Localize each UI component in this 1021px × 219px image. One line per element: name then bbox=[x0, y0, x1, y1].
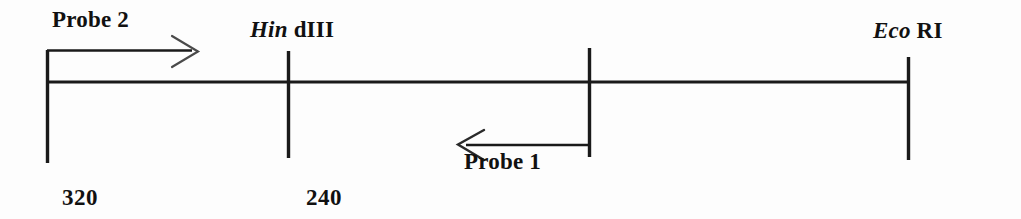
ecori-genus-text: Eco bbox=[873, 18, 911, 43]
fragment-size-label-left: 320 bbox=[62, 186, 98, 209]
ecori-site-label: Eco RI bbox=[873, 19, 943, 42]
fragment-size-label-middle: 240 bbox=[306, 186, 342, 209]
hindiii-site-label: Hin dIII bbox=[250, 18, 334, 41]
probe1-label: Probe 1 bbox=[464, 150, 541, 173]
ecori-number-text: RI bbox=[917, 18, 943, 43]
hindiii-genus-text: Hin bbox=[250, 17, 288, 42]
restriction-map-canvas bbox=[0, 0, 1021, 219]
restriction-map-figure: Probe 2 Hin dIII Eco RI Probe 1 320 240 bbox=[0, 0, 1021, 219]
hindiii-number-text: dIII bbox=[294, 17, 334, 42]
probe2-label: Probe 2 bbox=[52, 8, 129, 31]
